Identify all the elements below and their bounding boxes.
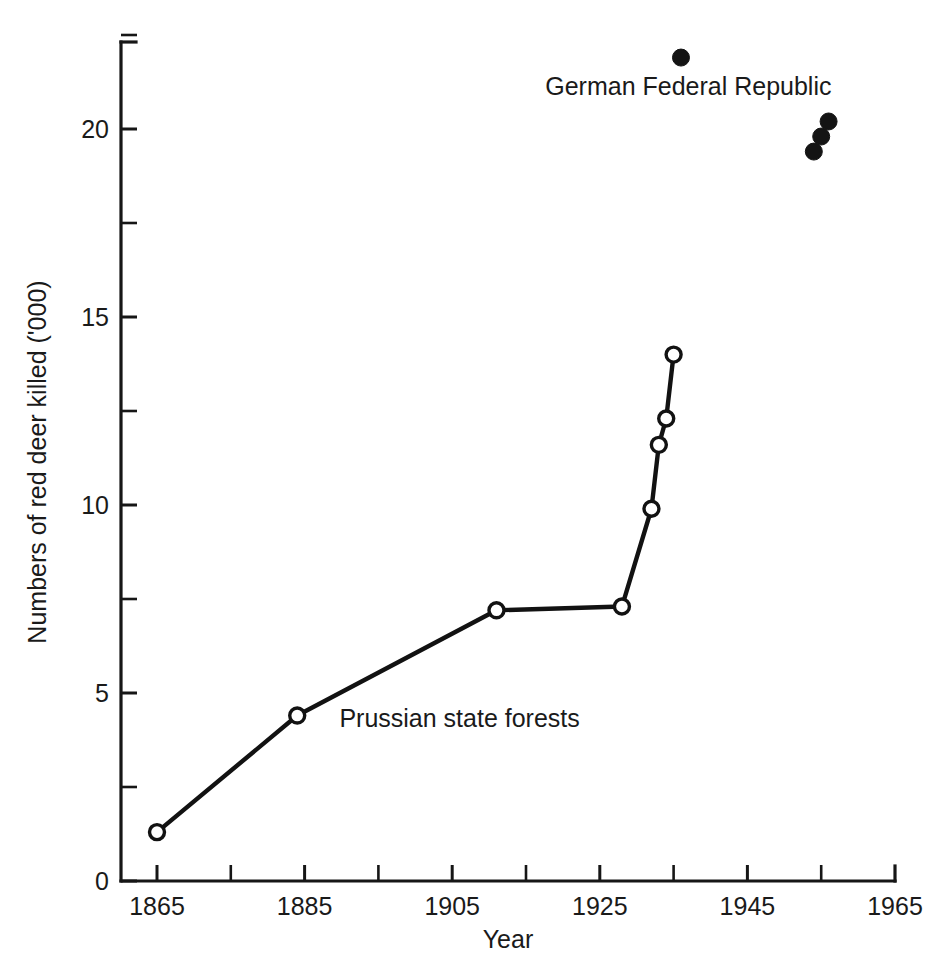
- x-axis-tick-labels: 186518851905192519451965: [129, 892, 923, 920]
- x-axis-ticks: [157, 865, 821, 881]
- y-axis-tick-labels: 05101520: [81, 115, 109, 895]
- data-point-filled: [672, 49, 689, 66]
- y-tick-label: 10: [81, 491, 109, 519]
- series-annotations: German Federal RepublicPrussian state fo…: [339, 72, 831, 732]
- x-tick-label: 1925: [572, 892, 628, 920]
- data-point-open: [666, 347, 681, 362]
- x-tick-label: 1965: [867, 892, 923, 920]
- y-tick-label: 0: [95, 867, 109, 895]
- data-point-open: [150, 825, 165, 840]
- x-axis-title: Year: [483, 925, 534, 953]
- data-point-open: [651, 437, 666, 452]
- annotation-prussian-state-forests: Prussian state forests: [339, 704, 579, 732]
- x-tick-label: 1945: [720, 892, 776, 920]
- y-tick-label: 5: [95, 679, 109, 707]
- red-deer-killed-line-chart: 05101520 186518851905192519451965 German…: [0, 0, 936, 979]
- data-point-filled: [805, 143, 822, 160]
- data-point-filled: [820, 113, 837, 130]
- x-tick-label: 1885: [277, 892, 333, 920]
- x-tick-label: 1905: [424, 892, 480, 920]
- annotation-german-federal-republic: German Federal Republic: [545, 72, 831, 100]
- y-axis-title: Numbers of red deer killed ('000): [23, 280, 51, 643]
- series-polylines: [157, 355, 674, 833]
- data-point-open: [659, 411, 674, 426]
- series-line-prussian-state-forests: [157, 355, 674, 833]
- chart-figure: 05101520 186518851905192519451965 German…: [0, 0, 936, 979]
- data-point-open: [489, 603, 504, 618]
- x-tick-label: 1865: [129, 892, 185, 920]
- data-point-filled: [813, 128, 830, 145]
- y-tick-label: 20: [81, 115, 109, 143]
- data-point-open: [290, 708, 305, 723]
- data-point-open: [614, 599, 629, 614]
- y-tick-label: 15: [81, 303, 109, 331]
- y-axis-ticks: [121, 35, 137, 881]
- data-point-open: [644, 501, 659, 516]
